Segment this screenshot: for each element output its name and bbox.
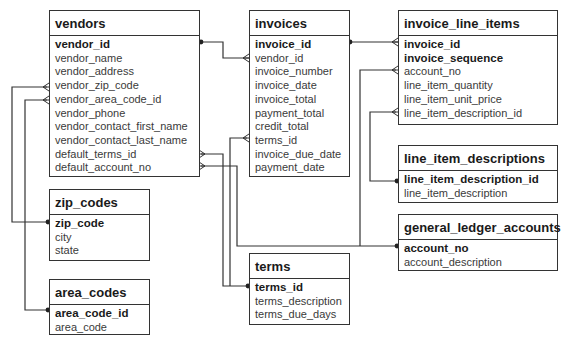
field: default_terms_id xyxy=(55,148,194,162)
field: account_description xyxy=(404,256,552,270)
table-title: line_item_descriptions xyxy=(399,146,557,171)
field-primary-key: invoice_id xyxy=(255,38,344,52)
field-primary-key: invoice_sequence xyxy=(404,52,552,66)
table-zip-codes[interactable]: zip_codes zip_code city state xyxy=(49,189,150,261)
table-line-item-descriptions[interactable]: line_item_descriptions line_item_descrip… xyxy=(398,145,558,203)
field: city xyxy=(55,231,144,245)
field: payment_date xyxy=(255,161,344,175)
field: vendor_phone xyxy=(55,107,194,121)
table-invoice-line-items[interactable]: invoice_line_items invoice_id invoice_se… xyxy=(398,10,558,125)
field: invoice_due_date xyxy=(255,148,344,162)
table-area-codes[interactable]: area_codes area_code_id area_code xyxy=(49,279,150,335)
table-title: invoices xyxy=(250,11,349,36)
field-list: line_item_description_id line_item_descr… xyxy=(399,171,557,203)
rel-lid-lineitems xyxy=(370,112,398,181)
rel-area-vendors xyxy=(25,100,49,310)
rel-terms-vendors xyxy=(201,154,249,286)
field: vendor_area_code_id xyxy=(55,93,194,107)
field: line_item_description xyxy=(404,187,552,201)
field: credit_total xyxy=(255,120,344,134)
field-list: invoice_id invoice_sequence account_no l… xyxy=(399,36,557,123)
table-vendors[interactable]: vendors vendor_id vendor_name vendor_add… xyxy=(49,10,200,177)
table-title: terms xyxy=(250,254,349,279)
field: account_no xyxy=(404,65,552,79)
field-list: vendor_id vendor_name vendor_address ven… xyxy=(50,36,199,178)
field: vendor_address xyxy=(55,65,194,79)
field-list: zip_code city state xyxy=(50,215,149,261)
field: invoice_date xyxy=(255,79,344,93)
rel-vendors-invoices xyxy=(200,42,249,58)
table-terms[interactable]: terms terms_id terms_description terms_d… xyxy=(249,253,350,325)
table-title: invoice_line_items xyxy=(399,11,557,36)
table-title: vendors xyxy=(50,11,199,36)
field: line_item_quantity xyxy=(404,79,552,93)
field: terms_due_days xyxy=(255,308,344,322)
field: default_account_no xyxy=(55,161,194,175)
field: invoice_number xyxy=(255,65,344,79)
field: vendor_contact_first_name xyxy=(55,120,194,134)
table-invoices[interactable]: invoices invoice_id vendor_id invoice_nu… xyxy=(249,10,350,177)
field-list: terms_id terms_description terms_due_day… xyxy=(250,279,349,325)
table-title: general_ledger_accounts xyxy=(399,215,557,240)
field-primary-key: vendor_id xyxy=(55,38,194,52)
field-primary-key: area_code_id xyxy=(55,307,144,321)
field: line_item_unit_price xyxy=(404,93,552,107)
field: vendor_name xyxy=(55,52,194,66)
field: vendor_id xyxy=(255,52,344,66)
rel-gla-lineitems xyxy=(360,70,396,246)
field: area_code xyxy=(55,321,144,335)
field: terms_id xyxy=(255,134,344,148)
table-title: zip_codes xyxy=(50,190,149,215)
field-list: invoice_id vendor_id invoice_number invo… xyxy=(250,36,349,178)
field-primary-key: zip_code xyxy=(55,217,144,231)
field-primary-key: terms_id xyxy=(255,281,344,295)
table-general-ledger-accounts[interactable]: general_ledger_accounts account_no accou… xyxy=(398,214,558,271)
table-title: area_codes xyxy=(50,280,149,305)
field-primary-key: account_no xyxy=(404,242,552,256)
field: line_item_description_id xyxy=(404,107,552,121)
field: vendor_contact_last_name xyxy=(55,134,194,148)
field-list: area_code_id area_code xyxy=(50,305,149,337)
field-primary-key: line_item_description_id xyxy=(404,173,552,187)
rel-terms-invoices xyxy=(230,138,247,286)
field: state xyxy=(55,244,144,258)
field-list: account_no account_description xyxy=(399,240,557,272)
field-primary-key: invoice_id xyxy=(404,38,552,52)
field: invoice_total xyxy=(255,93,344,107)
field: vendor_zip_code xyxy=(55,79,194,93)
rel-zip-vendors xyxy=(12,87,49,222)
field: terms_description xyxy=(255,295,344,309)
field: payment_total xyxy=(255,107,344,121)
